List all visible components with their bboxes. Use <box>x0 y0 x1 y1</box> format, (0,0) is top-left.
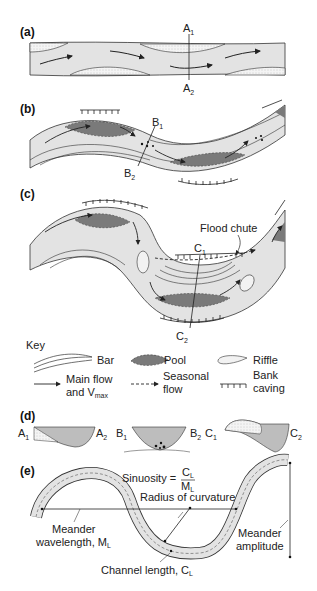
panel-b: (b) B1 B2 <box>20 100 285 185</box>
profile-a1-label: A1 <box>18 427 29 441</box>
panel-c-label: (c) <box>20 187 35 201</box>
bank-caving-icon <box>178 179 238 185</box>
panel-a-label: (a) <box>20 25 35 39</box>
panel-b-label: (b) <box>20 102 35 116</box>
legend: Key Bar Pool Riffle Main flow and Vmax S… <box>26 339 285 399</box>
river-channel-diagram: (a) A1 A2 (b) <box>0 0 317 591</box>
channel-length-label: Channel length, CL <box>101 564 193 577</box>
riffle-shape <box>137 251 149 273</box>
legend-riffle-label: Riffle <box>253 354 278 366</box>
profile-c1-label: C1 <box>205 427 217 441</box>
section-b2-label: B2 <box>124 167 135 181</box>
legend-riffle-icon <box>218 356 247 364</box>
meander-amplitude-label-1: Meander <box>238 527 282 539</box>
panel-e-label: (e) <box>20 464 35 478</box>
meander-wavelength-label-2: wavelength, ML <box>35 536 111 549</box>
sinuosity-numerator: CL <box>182 466 194 479</box>
section-b1-label: B1 <box>152 116 163 130</box>
section-c2-label: C2 <box>176 330 188 344</box>
legend-bank-caving-label-2: caving <box>253 382 285 394</box>
panel-d: (d) A1 A2 B1 B2 C1 C2 <box>18 409 302 452</box>
legend-bar-label: Bar <box>97 354 114 366</box>
panel-a: (a) A1 A2 <box>20 22 285 96</box>
profile-b1-label: B1 <box>116 427 127 441</box>
profile-a2-label: A2 <box>96 427 107 441</box>
legend-bank-caving-label-1: Bank <box>253 369 279 381</box>
sinuosity-label: Sinuosity = <box>122 472 176 484</box>
panel-e: (e) Sinuosity = CL ML Radius of curvatur… <box>20 460 291 577</box>
section-c1-label: C1 <box>194 242 206 256</box>
radius-line <box>165 508 190 541</box>
meander-wavelength-label-1: Meander <box>52 523 96 535</box>
profile-b2-label: B2 <box>190 427 201 441</box>
legend-title: Key <box>26 339 45 351</box>
section-a1-label: A1 <box>183 22 194 36</box>
legend-main-flow-label-2: and Vmax <box>66 386 108 399</box>
flood-chute-label: Flood chute <box>200 222 257 234</box>
legend-seasonal-flow-label-2: flow <box>163 383 183 395</box>
meander-amplitude-label-2: amplitude <box>236 540 284 552</box>
legend-pool-icon <box>131 355 168 366</box>
panel-c: (c) <box>20 187 285 344</box>
sinuous-channel <box>30 105 285 171</box>
section-a2-label: A2 <box>183 82 194 96</box>
legend-main-flow-label-1: Main flow <box>66 373 113 385</box>
panel-d-label: (d) <box>20 409 35 423</box>
legend-pool-label: Pool <box>164 354 186 366</box>
radius-of-curvature-label: Radius of curvature <box>140 491 235 503</box>
cross-section-b <box>132 427 186 450</box>
legend-seasonal-flow-label-1: Seasonal <box>163 370 209 382</box>
profile-c2-label: C2 <box>290 427 302 441</box>
